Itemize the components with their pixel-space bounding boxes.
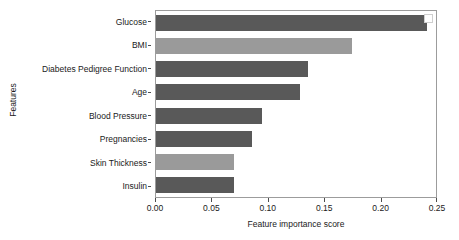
- bar: [156, 15, 427, 31]
- y-tick-label: Skin Thickness: [90, 159, 147, 168]
- y-tick-label: Pregnancies: [100, 135, 147, 144]
- x-axis-title: Feature importance score: [155, 219, 437, 229]
- bar-row: [156, 58, 436, 81]
- bar: [156, 61, 308, 77]
- y-tick-row: Blood Pressure: [18, 104, 151, 128]
- bar: [156, 131, 252, 147]
- y-tick-mark: [148, 92, 151, 93]
- bars-layer: [156, 11, 436, 197]
- bar-row: [156, 104, 436, 127]
- bar: [156, 38, 352, 54]
- x-tick-label: 0.10: [260, 203, 277, 213]
- x-tick-label: 0.25: [429, 203, 446, 213]
- y-tick-mark: [148, 162, 151, 163]
- bar: [156, 177, 234, 193]
- y-tick-mark: [148, 68, 151, 69]
- y-tick-row: Diabetes Pedigree Function: [18, 57, 151, 81]
- y-tick-row: BMI: [18, 34, 151, 58]
- y-tick-label: Age: [132, 88, 147, 97]
- bar-row: [156, 174, 436, 197]
- y-tick-row: Age: [18, 81, 151, 105]
- x-tick-label: 0.05: [203, 203, 220, 213]
- x-tick-mark: [268, 198, 269, 202]
- y-tick-row: Glucose: [18, 10, 151, 34]
- bar-row: [156, 34, 436, 57]
- bar: [156, 154, 234, 170]
- x-tick-label: 0.00: [147, 203, 164, 213]
- x-axis-tick-labels: 0.000.050.100.150.200.25: [155, 203, 437, 215]
- y-tick-label: Blood Pressure: [89, 112, 147, 121]
- x-tick-label: 0.20: [372, 203, 389, 213]
- bar-row: [156, 81, 436, 104]
- y-tick-row: Skin Thickness: [18, 151, 151, 175]
- y-tick-mark: [148, 115, 151, 116]
- x-tick-mark: [436, 198, 437, 202]
- y-tick-label: Diabetes Pedigree Function: [42, 65, 147, 74]
- y-axis-title-text: Features: [8, 83, 18, 117]
- y-tick-label: BMI: [132, 41, 147, 50]
- bar: [156, 108, 262, 124]
- plot-corner-artifact: [424, 14, 433, 23]
- y-tick-row: Insulin: [18, 175, 151, 199]
- feature-importance-bar-chart: Features GlucoseBMIDiabetes Pedigree Fun…: [0, 0, 459, 240]
- x-tick-label: 0.15: [316, 203, 333, 213]
- bar-row: [156, 151, 436, 174]
- y-tick-mark: [148, 21, 151, 22]
- y-tick-label: Insulin: [122, 182, 147, 191]
- bar: [156, 84, 300, 100]
- x-tick-mark: [324, 198, 325, 202]
- plot-area: [155, 10, 437, 198]
- x-tick-mark: [155, 198, 156, 202]
- y-tick-label: Glucose: [116, 18, 147, 27]
- y-tick-mark: [148, 45, 151, 46]
- y-tick-mark: [148, 186, 151, 187]
- bar-row: [156, 127, 436, 150]
- x-tick-mark: [211, 198, 212, 202]
- x-tick-mark: [381, 198, 382, 202]
- y-axis-tick-labels: GlucoseBMIDiabetes Pedigree FunctionAgeB…: [18, 10, 151, 198]
- y-tick-row: Pregnancies: [18, 128, 151, 152]
- bar-row: [156, 11, 436, 34]
- y-tick-mark: [148, 139, 151, 140]
